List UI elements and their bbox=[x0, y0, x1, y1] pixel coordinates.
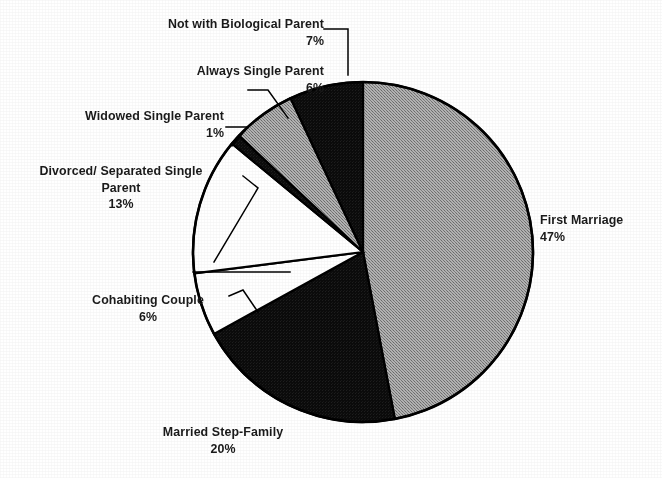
slice-label-value: 47% bbox=[540, 229, 658, 246]
slice-label-name: First Marriage bbox=[540, 212, 658, 229]
pie-chart-figure: First Marriage 47%Married Step-Family 20… bbox=[0, 0, 662, 478]
pie-slice-group: First Marriage 47%Married Step-Family 20… bbox=[193, 82, 533, 422]
slice-label-married-step-family: Married Step-Family 20% bbox=[132, 424, 314, 457]
slice-label-divorced-separated-single-parent: Divorced/ Separated Single Parent 13% bbox=[14, 163, 228, 213]
pie-slice-first-marriage[interactable]: First Marriage 47% bbox=[363, 82, 533, 419]
slice-label-value: 20% bbox=[132, 441, 314, 458]
slice-label-not-with-biological-parent: Not with Biological Parent 7% bbox=[128, 16, 324, 49]
leader-line-not-with-biological-parent bbox=[324, 29, 348, 75]
slice-label-cohabiting-couple: Cohabiting Couple 6% bbox=[68, 292, 228, 325]
slice-label-value: 6% bbox=[68, 309, 228, 326]
slice-label-value: 13% bbox=[14, 196, 228, 213]
slice-label-value: 1% bbox=[54, 125, 224, 142]
slice-label-name: Always Single Parent bbox=[104, 63, 324, 80]
slice-label-first-marriage: First Marriage 47% bbox=[540, 212, 658, 245]
slice-label-name-line1: Divorced/ Separated Single bbox=[14, 163, 228, 180]
slice-label-always-single-parent: Always Single Parent 6% bbox=[104, 63, 324, 96]
slice-label-name-line2: Parent bbox=[14, 180, 228, 197]
slice-label-widowed-single-parent: Widowed Single Parent 1% bbox=[54, 108, 224, 141]
slice-label-name: Married Step-Family bbox=[132, 424, 314, 441]
slice-label-value: 6% bbox=[104, 80, 324, 97]
slice-label-name: Cohabiting Couple bbox=[68, 292, 228, 309]
slice-label-value: 7% bbox=[128, 33, 324, 50]
slice-label-name: Widowed Single Parent bbox=[54, 108, 224, 125]
slice-label-name: Not with Biological Parent bbox=[128, 16, 324, 33]
